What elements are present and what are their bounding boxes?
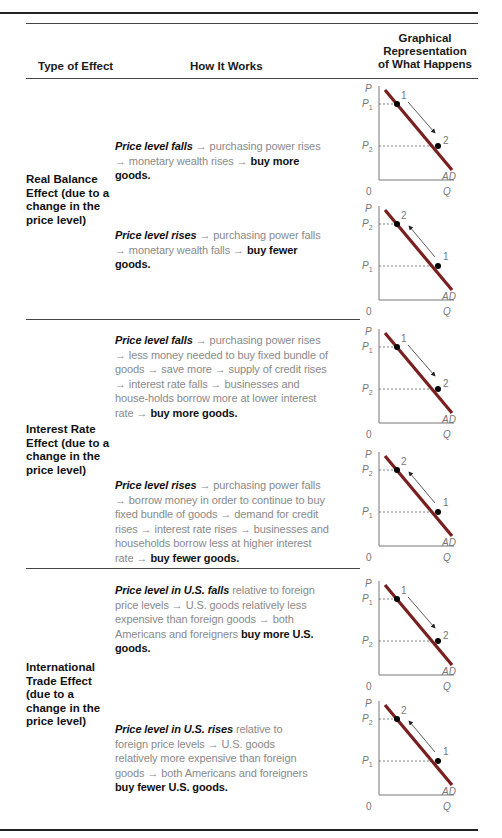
origin-label: 0 [366, 306, 372, 317]
point-number-lower: 1 [443, 497, 449, 508]
case-lead: Price level rises [115, 479, 196, 491]
price-label-lower: P2 [362, 383, 373, 396]
bottom-rule-thick [0, 829, 478, 831]
point-number-lower: 2 [443, 135, 449, 146]
graph-trade-rises: P0QP2P1AD21 [358, 697, 470, 817]
ad-curve-label: AD [441, 786, 456, 797]
origin-label: 0 [366, 429, 372, 440]
y-axis-label: P [365, 578, 372, 589]
point-upper [394, 716, 400, 722]
case-result: buy fewer U.S. goods. [115, 781, 228, 793]
point-number-upper: 1 [401, 333, 407, 344]
graph-interest-rate-falls: P0QP1P2AD12 [358, 325, 470, 445]
point-number-upper: 1 [401, 90, 407, 101]
y-axis-label: P [365, 83, 372, 94]
effect-label-international-trade: International Trade Effect (due to a cha… [26, 661, 116, 729]
point-lower [435, 638, 441, 644]
graph-real-balance-falls: P0QP1P2AD12 [358, 82, 470, 202]
origin-label: 0 [366, 801, 372, 812]
x-axis-label: Q [443, 306, 451, 317]
graph-real-balance-rises: P0QP2P1AD21 [358, 202, 470, 322]
point-upper [394, 101, 400, 107]
price-label-lower: P1 [362, 506, 373, 519]
effect-label-interest-rate: Interest Rate Effect (due to a change in… [26, 423, 116, 477]
price-label-lower: P2 [362, 635, 373, 648]
header-graphical-line1: Graphical [372, 32, 478, 45]
point-lower [435, 263, 441, 269]
point-lower [435, 509, 441, 515]
ad-curve-label: AD [441, 666, 456, 677]
top-rule-thin [26, 23, 478, 24]
case-lead: Price level in U.S. rises [115, 723, 233, 735]
header-type-of-effect: Type of Effect [38, 60, 113, 73]
point-number-upper: 2 [401, 456, 407, 467]
how-real-balance-rises: Price level rises → purchasing power fal… [115, 228, 330, 272]
point-number-lower: 2 [443, 630, 449, 641]
case-result: buy fewer goods. [150, 552, 239, 564]
header-graphical-line3: of What Happens [372, 58, 478, 71]
y-axis-label: P [365, 449, 372, 460]
x-axis-label: Q [443, 681, 451, 692]
case-lead: Price level in U.S. falls [115, 584, 229, 596]
ad-curve-label: AD [441, 414, 456, 425]
ad-curve-label: AD [441, 291, 456, 302]
point-number-upper: 1 [401, 585, 407, 596]
movement-arrow-down [408, 597, 435, 628]
case-lead: Price level rises [115, 229, 196, 241]
point-number-upper: 2 [401, 705, 407, 716]
point-number-upper: 2 [401, 210, 407, 221]
origin-label: 0 [366, 552, 372, 563]
point-number-lower: 1 [443, 746, 449, 757]
movement-arrow-down [408, 102, 435, 133]
x-axis-label: Q [443, 186, 451, 197]
price-label-upper: P2 [362, 713, 373, 726]
header-how-it-works: How It Works [190, 60, 263, 73]
point-upper [394, 467, 400, 473]
header-graphical: Graphical Representation of What Happens [372, 32, 478, 71]
y-axis-label: P [365, 326, 372, 337]
point-upper [394, 221, 400, 227]
row-divider-2 [26, 568, 360, 569]
case-lead: Price level falls [115, 140, 193, 152]
case-result: buy more goods. [150, 407, 237, 419]
y-axis-label: P [365, 203, 372, 214]
y-axis-label: P [365, 698, 372, 709]
point-lower [435, 143, 441, 149]
price-label-upper: P1 [362, 341, 373, 354]
origin-label: 0 [366, 681, 372, 692]
price-label-upper: P2 [362, 464, 373, 477]
price-label-upper: P1 [362, 98, 373, 111]
point-number-lower: 1 [443, 251, 449, 262]
x-axis-label: Q [443, 429, 451, 440]
x-axis-label: Q [443, 552, 451, 563]
point-number-lower: 2 [443, 378, 449, 389]
origin-label: 0 [366, 186, 372, 197]
ad-curve-label: AD [441, 171, 456, 182]
how-interest-rate-rises: Price level rises → purchasing power fal… [115, 478, 330, 566]
price-label-lower: P1 [362, 260, 373, 273]
price-label-upper: P2 [362, 218, 373, 231]
how-interest-rate-falls: Price level falls → purchasing power ris… [115, 333, 330, 421]
point-upper [394, 344, 400, 350]
point-upper [394, 596, 400, 602]
how-trade-rises: Price level in U.S. rises relative to fo… [115, 722, 315, 795]
how-trade-falls: Price level in U.S. falls relative to fo… [115, 583, 315, 656]
how-real-balance-falls: Price level falls → purchasing power ris… [115, 139, 330, 183]
case-lead: Price level falls [115, 334, 193, 346]
price-label-lower: P1 [362, 755, 373, 768]
graph-interest-rate-rises: P0QP2P1AD21 [358, 448, 470, 568]
price-label-lower: P2 [362, 140, 373, 153]
header-graphical-line2: Representation [372, 45, 478, 58]
graph-trade-falls: P0QP1P2AD12 [358, 577, 470, 697]
point-lower [435, 386, 441, 392]
top-rule-thick [0, 12, 478, 14]
price-label-upper: P1 [362, 593, 373, 606]
effect-label-real-balance: Real Balance Effect (due to a change in … [26, 173, 116, 227]
point-lower [435, 758, 441, 764]
header-rule [26, 78, 478, 79]
row-divider-1 [26, 319, 360, 320]
x-axis-label: Q [443, 801, 451, 812]
ad-curve-label: AD [441, 537, 456, 548]
movement-arrow-down [408, 345, 435, 376]
